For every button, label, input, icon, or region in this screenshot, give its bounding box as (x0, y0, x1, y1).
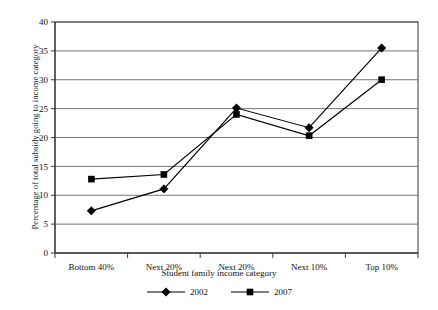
legend-item-2007[interactable]: 2007 (230, 286, 292, 298)
y-tick-label: 30 (39, 75, 49, 85)
y-tick-label: 5 (44, 219, 49, 229)
gridlines-group (55, 22, 418, 253)
y-tick-label: 15 (39, 162, 49, 172)
x-axis-title: Student family income category (0, 268, 438, 278)
legend-label: 2007 (274, 287, 292, 297)
legend-diamond-marker-icon (146, 286, 186, 298)
series-group (87, 44, 386, 215)
x-tick-group (55, 253, 418, 258)
chart-legend: 20022007 (0, 286, 438, 298)
series-2002 (87, 44, 386, 215)
plot-area: 0510152025303540 Bottom 40%Next 20%Next … (0, 0, 438, 310)
legend-label: 2002 (190, 287, 208, 297)
y-tick-group: 0510152025303540 (39, 17, 55, 258)
y-tick-label: 35 (39, 46, 49, 56)
y-tick-label: 25 (39, 104, 49, 114)
y-tick-label: 0 (44, 248, 49, 258)
chart-figure: Percentage of total subsidy going to inc… (0, 0, 438, 310)
legend-square-marker-icon (230, 286, 270, 298)
y-tick-label: 10 (39, 190, 49, 200)
y-tick-label: 20 (39, 133, 49, 143)
y-tick-label: 40 (39, 17, 49, 27)
legend-item-2002[interactable]: 2002 (146, 286, 208, 298)
